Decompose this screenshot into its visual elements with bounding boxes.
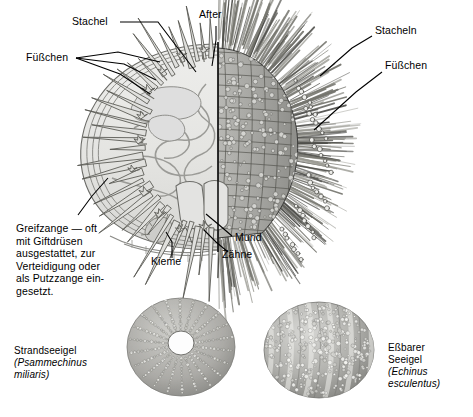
specimen-essbarer-seeigel-scientific: (Echinus esculentus) <box>388 366 440 389</box>
specimen-essbarer-seeigel-name: Eßbarer Seeigel <box>388 342 425 365</box>
specimen-essbarer-seeigel-image <box>264 302 380 398</box>
label-fuesschen-right: Füßchen <box>385 59 427 72</box>
label-stacheln-right: Stacheln <box>375 24 417 37</box>
label-zaehne: Zähne <box>222 248 252 261</box>
caption-greifzange: Greifzange — oft mit Giftdrüsen ausgesta… <box>16 222 104 298</box>
figure-canvas: Stachel Füßchen After Stacheln Füßchen M… <box>0 0 473 417</box>
label-kieme: Kieme <box>151 255 181 268</box>
specimen-strandseeigel-image <box>127 297 235 396</box>
specimen-strandseeigel-name: Strandseeigel <box>14 345 76 357</box>
label-stachel: Stachel <box>72 15 108 28</box>
specimen-strandseeigel-scientific: (Psammechinus miliaris) <box>14 357 87 380</box>
label-after: After <box>199 8 222 21</box>
label-mund: Mund <box>235 231 262 244</box>
label-fuesschen-left: Füßchen <box>26 51 68 64</box>
